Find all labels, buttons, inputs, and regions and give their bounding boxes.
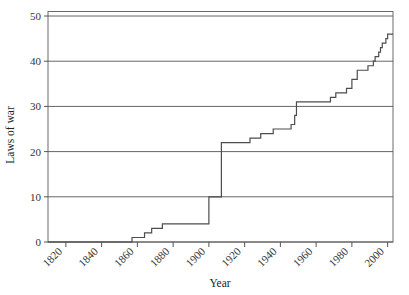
y-tick-label: 0 <box>36 236 42 248</box>
x-axis-title: Year <box>209 277 230 289</box>
y-tick-label: 50 <box>30 10 42 22</box>
y-axis-title: Laws of war <box>4 106 16 164</box>
y-tick-label: 40 <box>30 55 42 67</box>
y-tick-label: 10 <box>30 191 42 203</box>
chart-figure: 01020304050 1820184018601880190019201940… <box>0 0 409 295</box>
y-tick-label: 20 <box>30 146 42 158</box>
y-tick-label: 30 <box>30 100 42 112</box>
laws-of-war-step-chart: 01020304050 1820184018601880190019201940… <box>0 0 409 295</box>
